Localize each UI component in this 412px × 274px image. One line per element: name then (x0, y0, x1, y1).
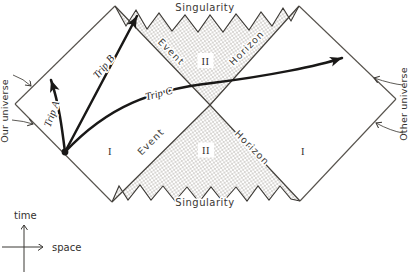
other-universe-lower-edge (300, 99, 396, 201)
our-universe-pointer-lower (12, 120, 33, 124)
trip-b-arrow (65, 16, 137, 152)
region-II-top-label: II (202, 56, 210, 67)
singularity-top-label: Singularity (175, 2, 234, 13)
other-universe-upper-edge (299, 6, 396, 99)
region-II-bottom-label: II (202, 145, 210, 156)
trip-start-point (62, 149, 69, 156)
singularity-bottom-label: Singularity (175, 197, 234, 208)
penrose-diagram: Event Horizon Event Horizon Singularity … (0, 0, 412, 274)
our-universe-pointers (12, 75, 33, 124)
space-axis-label: space (52, 242, 81, 253)
our-universe-upper-edge (15, 6, 115, 104)
region-I-left-label: I (108, 146, 112, 157)
penrose-diagram-figure: Event Horizon Event Horizon Singularity … (0, 0, 412, 274)
our-universe-label: Our universe (0, 79, 10, 143)
trip-c-label: TripC (144, 85, 174, 103)
time-axis-label: time (14, 210, 37, 221)
other-universe-label: Other universe (398, 67, 409, 141)
axes-key: time space (2, 210, 81, 272)
our-universe-pointer-upper (13, 75, 31, 86)
region-I-right-label: I (301, 146, 305, 157)
